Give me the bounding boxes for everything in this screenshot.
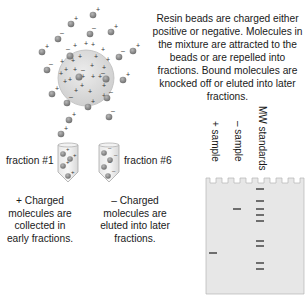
svg-text:+: + [72,111,76,118]
svg-text:–: – [69,93,73,100]
lane-label-minus-sample: – sample [233,121,244,162]
svg-text:–: – [49,60,53,67]
svg-text:+: + [102,82,106,89]
description-text: Resin beads are charged either positive … [150,12,305,103]
svg-text:+: + [91,73,95,80]
svg-text:+: + [96,6,100,13]
svg-text:+: + [106,56,110,63]
svg-text:–: – [111,107,115,114]
fraction-6-label: fraction #6 [124,155,172,166]
lane-label-plus-sample: + sample [210,121,221,162]
fraction-tube-1: + + + + [58,143,78,182]
svg-text:–: – [109,88,113,95]
svg-text:+: + [73,42,77,49]
svg-text:–: – [92,24,96,31]
svg-text:+: + [73,152,77,158]
lane-label-mw-standards: MW standards [257,106,268,170]
svg-text:–: – [121,47,125,54]
svg-text:+: + [101,46,105,53]
gel [206,178,304,294]
svg-text:+: + [68,76,72,83]
fraction-tube-6: – – – – [99,143,119,182]
svg-text:+: + [78,53,82,60]
fraction-1-label: fraction #1 [6,155,54,166]
svg-text:+: + [60,58,64,65]
svg-text:+: + [63,78,67,85]
svg-text:+: + [66,159,70,165]
svg-text:+: + [73,66,77,73]
svg-text:–: – [66,45,70,52]
svg-text:+: + [88,88,92,95]
svg-text:+: + [71,169,75,175]
svg-text:–: – [60,29,64,36]
svg-text:+: + [114,23,118,30]
fraction-1-caption: + Charged molecules are collected in ear… [4,195,76,245]
svg-text:+: + [45,43,49,50]
svg-text:+: + [91,41,95,48]
svg-text:+: + [55,85,59,92]
svg-text:+: + [64,66,68,73]
svg-text:+: + [84,40,88,47]
svg-text:+: + [74,87,78,94]
svg-text:+: + [80,82,84,89]
svg-text:+: + [64,125,68,132]
svg-text:–: – [101,69,105,76]
svg-text:+: + [91,98,95,105]
svg-text:+: + [66,146,70,152]
svg-text:+: + [94,53,98,60]
svg-text:+: + [90,62,94,69]
svg-text:–: – [81,66,85,73]
svg-text:+: + [74,15,78,22]
svg-text:+: + [136,42,140,49]
svg-text:+: + [126,71,130,78]
fraction-6-caption: – Charged molecules are eluted into late… [96,195,174,245]
svg-text:+: + [59,70,63,77]
